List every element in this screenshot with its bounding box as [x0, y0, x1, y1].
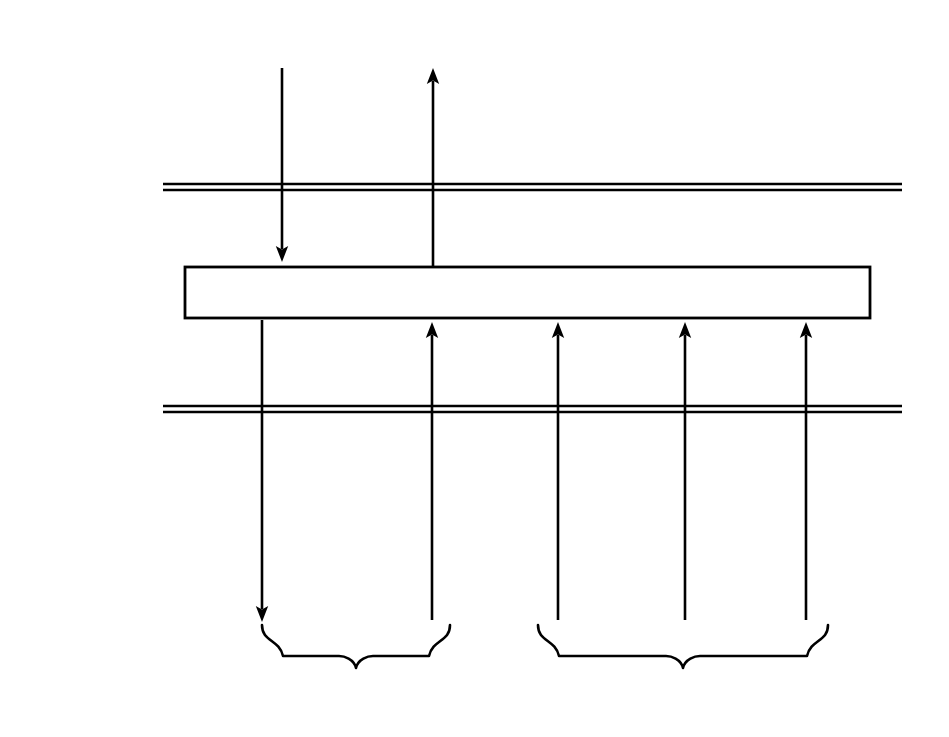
protocol-layer-diagram	[0, 0, 949, 737]
grouping-braces	[262, 625, 828, 668]
entity-box-media-access-control	[185, 267, 870, 318]
brace-control-brace	[538, 625, 828, 668]
diagram-canvas	[0, 0, 949, 737]
signal-arrows	[256, 68, 812, 622]
brace-data-brace	[262, 625, 450, 668]
entity-boxes	[185, 267, 870, 318]
